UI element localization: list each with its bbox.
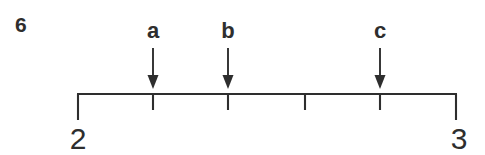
arrow-marker-b: b (221, 18, 234, 89)
arrow-head-b (223, 75, 234, 89)
number-line-figure: 6 a b c 2 3 (0, 0, 485, 155)
arrow-label-a: a (147, 18, 160, 43)
arrow-head-a (148, 75, 159, 89)
problem-number: 6 (15, 13, 27, 36)
endpoint-label-start: 2 (70, 122, 87, 155)
arrow-marker-a: a (147, 18, 160, 89)
arrow-label-c: c (374, 18, 386, 43)
arrow-label-b: b (221, 18, 234, 43)
arrow-head-c (375, 75, 386, 89)
endpoint-label-end: 3 (451, 122, 468, 155)
number-line-diagram: 6 a b c 2 3 (0, 0, 485, 155)
arrow-marker-c: c (374, 18, 386, 89)
